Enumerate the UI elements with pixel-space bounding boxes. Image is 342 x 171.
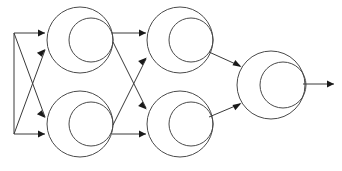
- input-edge-group: [14, 30, 46, 138]
- node-hidden1-top-outer-circle: [47, 7, 113, 73]
- node-hidden1-bottom-inner-circle: [69, 102, 113, 146]
- edge-input-1-to-hidden1-bottom: [14, 33, 45, 117]
- hidden-layer-2-group: [147, 7, 213, 157]
- output-edge-group: [303, 81, 334, 88]
- edge-hidden1-bottom-to-hidden2-top: [113, 59, 146, 125]
- arrowhead-input-1-to-hidden1-top: [38, 30, 45, 37]
- node-hidden1-top-inner-circle: [69, 18, 113, 62]
- node-output[interactable]: [237, 51, 306, 119]
- node-hidden2-top[interactable]: [147, 7, 213, 73]
- node-hidden2-top-outer-circle: [147, 7, 213, 73]
- neural-network-canvas: [0, 0, 342, 171]
- arrowhead-input-2-to-hidden1-bottom: [38, 131, 45, 138]
- arrowhead-hidden1-bottom-to-hidden2-bottom: [139, 131, 146, 138]
- arrowhead-hidden1-bottom-to-hidden2-top: [138, 58, 147, 66]
- arrowhead-hidden2-top-to-output: [233, 60, 242, 67]
- arrowhead-hidden1-top-to-hidden2-top: [139, 30, 146, 37]
- arrowhead-hidden2-bottom-to-output: [233, 103, 242, 110]
- hidden1-to-hidden2-edge-group: [112, 30, 147, 138]
- neural-network-diagram: [0, 0, 342, 171]
- node-output-inner-circle: [260, 62, 306, 108]
- node-hidden2-bottom-inner-circle: [169, 102, 213, 146]
- node-hidden1-top[interactable]: [47, 7, 113, 73]
- node-output-outer-circle: [237, 51, 305, 119]
- node-hidden1-bottom-outer-circle: [47, 91, 113, 157]
- node-hidden2-bottom[interactable]: [147, 91, 213, 157]
- arrowhead-output-to-result: [327, 81, 334, 88]
- edge-hidden1-top-to-hidden2-bottom: [113, 42, 146, 108]
- arrowhead-hidden1-top-to-hidden2-bottom: [138, 102, 147, 110]
- node-hidden1-bottom[interactable]: [47, 91, 113, 157]
- node-hidden2-top-inner-circle: [169, 18, 213, 62]
- edge-input-2-to-hidden1-top: [14, 50, 45, 134]
- node-hidden2-bottom-outer-circle: [147, 91, 213, 157]
- hidden-layer-1-group: [47, 7, 113, 157]
